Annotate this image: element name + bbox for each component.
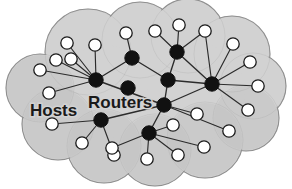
host-2 <box>65 53 77 65</box>
host-11 <box>244 56 256 68</box>
host-12 <box>252 80 264 92</box>
network-diagram-canvas: HostsRouters <box>0 0 292 189</box>
router-center <box>161 73 175 87</box>
router-hub <box>157 98 171 112</box>
router-lower-left <box>94 113 108 127</box>
host-17 <box>141 153 153 165</box>
host-21 <box>76 137 88 149</box>
network-cloud-figure: HostsRouters <box>0 0 292 189</box>
host-14 <box>223 125 235 137</box>
router-mid-stub <box>121 81 135 95</box>
router-lower-center <box>142 126 156 140</box>
host-9 <box>199 25 211 37</box>
routers-label: Routers <box>88 93 152 112</box>
router-upper-mid <box>125 51 139 65</box>
host-7 <box>149 25 161 37</box>
host-3 <box>89 39 101 51</box>
host-10 <box>227 38 239 50</box>
router-top-center <box>170 45 184 59</box>
host-6 <box>120 27 132 39</box>
host-8 <box>173 19 185 31</box>
host-4 <box>61 37 73 49</box>
router-top-left <box>89 73 103 87</box>
hosts-label: Hosts <box>30 101 77 120</box>
host-1 <box>50 54 62 66</box>
host-16 <box>172 149 184 161</box>
router-right <box>205 77 219 91</box>
host-18 <box>191 108 203 120</box>
host-23 <box>34 64 46 76</box>
host-22 <box>46 118 58 130</box>
host-24 <box>106 142 118 154</box>
host-5 <box>43 87 55 99</box>
host-15 <box>198 141 210 153</box>
host-19 <box>167 119 179 131</box>
host-13 <box>242 104 254 116</box>
